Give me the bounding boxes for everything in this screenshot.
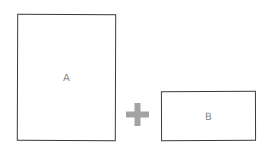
- plus-icon: [126, 103, 149, 126]
- box-b-label: B: [205, 111, 212, 121]
- box-b: B: [161, 91, 256, 141]
- diagram-canvas: A B: [0, 0, 271, 154]
- box-a-label: A: [63, 72, 70, 82]
- box-a: A: [17, 14, 116, 141]
